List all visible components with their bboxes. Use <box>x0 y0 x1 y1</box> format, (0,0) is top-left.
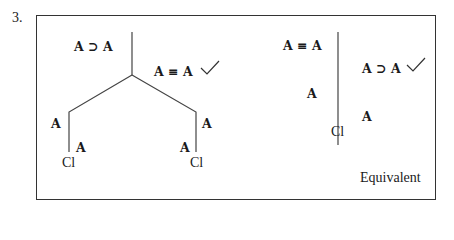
left-tree-root-left-formula: A ⊃ A <box>74 41 113 54</box>
right-tree-closure: Cl <box>331 125 344 139</box>
verdict-label: Equivalent <box>360 171 421 185</box>
right-branch-inner-label: A <box>180 142 190 155</box>
right-tree-left-lower-formula: A <box>307 88 317 101</box>
right-tree-right-top-formula: A ⊃ A <box>362 63 401 76</box>
left-branch-outer-label: A <box>51 118 61 131</box>
left-tree-root-right-formula: A ≡ A <box>154 66 193 79</box>
right-tree-left-top-formula: A ≡ A <box>283 40 322 53</box>
right-branch-closure: Cl <box>190 156 203 170</box>
left-branch-closure: Cl <box>62 156 75 170</box>
right-branch-outer-label: A <box>202 118 212 131</box>
right-tree-right-lower-formula: A <box>362 111 372 124</box>
checkmark-icon <box>406 57 426 73</box>
checkmark-icon <box>200 60 220 76</box>
left-branch-inner-label: A <box>76 142 86 155</box>
